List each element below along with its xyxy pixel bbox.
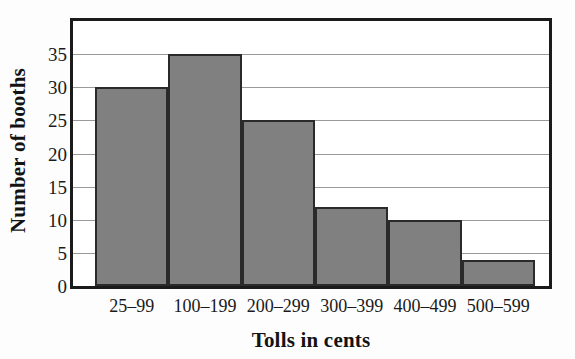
bar [388, 220, 461, 286]
x-tick-label: 200–299 [247, 296, 310, 318]
y-tick-label: 25 [48, 111, 67, 130]
y-tick-label: 20 [48, 144, 67, 163]
y-axis-title: Number of booths [0, 0, 36, 300]
x-tick-label: 400–499 [394, 296, 457, 318]
bar [168, 54, 241, 286]
bars-layer [73, 21, 549, 286]
x-tick-label: 25–99 [109, 296, 154, 318]
y-tick-label: 30 [48, 78, 67, 97]
y-axis-title-text: Number of booths [6, 68, 31, 233]
bar [462, 260, 535, 287]
bar [95, 87, 168, 286]
bar [315, 207, 388, 287]
x-axis-title: Tolls in cents [70, 328, 552, 353]
x-axis-tick-labels: 25–99100–199200–299300–399400–499500–599 [70, 296, 552, 322]
y-axis-tick-labels: 05101520253035 [34, 18, 67, 289]
plot-area [70, 18, 552, 289]
x-tick-label: 500–599 [467, 296, 530, 318]
y-tick-label: 10 [48, 210, 67, 229]
x-tick-label: 300–399 [320, 296, 383, 318]
y-tick-label: 0 [58, 277, 68, 296]
y-tick-label: 35 [48, 45, 67, 64]
y-tick-label: 5 [58, 243, 68, 262]
bar [242, 120, 315, 286]
x-tick-label: 100–199 [174, 296, 237, 318]
histogram-chart: Number of booths 05101520253035 25–99100… [0, 0, 575, 359]
y-tick-label: 15 [48, 177, 67, 196]
